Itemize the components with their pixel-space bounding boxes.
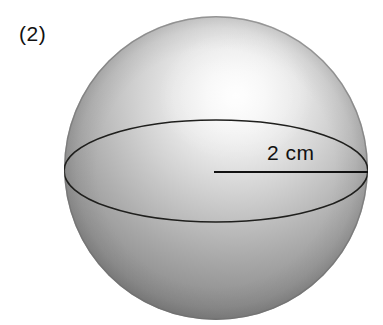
item-number-label: (2) <box>19 22 46 46</box>
sphere-figure-canvas: (2) 2 cm <box>0 0 383 325</box>
sphere-diagram-svg <box>0 0 383 325</box>
radius-measure-label: 2 cm <box>267 141 315 165</box>
